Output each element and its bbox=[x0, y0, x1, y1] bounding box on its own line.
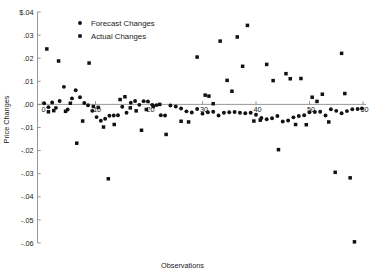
forecast-point bbox=[142, 99, 146, 103]
actual-point bbox=[288, 77, 292, 81]
x-tick-label: 0 bbox=[41, 105, 45, 114]
actual-point bbox=[305, 123, 309, 127]
forecast-point bbox=[206, 110, 210, 114]
forecast-point bbox=[318, 110, 322, 114]
forecast-point bbox=[340, 111, 344, 115]
forecast-point bbox=[275, 114, 279, 118]
forecast-point bbox=[350, 107, 354, 111]
actual-point bbox=[140, 129, 144, 133]
forecast-point bbox=[222, 111, 226, 115]
forecast-point bbox=[313, 110, 317, 114]
forecast-point bbox=[120, 105, 124, 109]
forecast-point bbox=[159, 113, 163, 117]
forecast-point bbox=[345, 109, 349, 113]
forecast-point bbox=[95, 115, 99, 119]
actual-point bbox=[333, 171, 337, 175]
forecast-point bbox=[146, 99, 150, 103]
legend-label: Forecast Changes bbox=[91, 19, 155, 28]
forecast-point bbox=[324, 114, 328, 118]
actual-point bbox=[187, 120, 191, 124]
actual-point bbox=[271, 79, 275, 83]
actual-point bbox=[158, 103, 162, 107]
actual-point bbox=[134, 109, 138, 113]
forecast-point bbox=[46, 105, 50, 109]
actual-point bbox=[69, 101, 73, 105]
forecast-point bbox=[179, 107, 183, 111]
actual-point bbox=[299, 77, 303, 81]
y-tick-label: -.05 bbox=[21, 216, 34, 225]
actual-point bbox=[57, 59, 61, 63]
y-tick-label: -.01 bbox=[21, 123, 34, 132]
forecast-point bbox=[58, 99, 62, 103]
forecast-point bbox=[243, 111, 247, 115]
forecast-point bbox=[74, 88, 78, 92]
forecast-point bbox=[174, 105, 178, 109]
forecast-point bbox=[190, 111, 194, 115]
y-tick-label: .03 bbox=[23, 31, 33, 40]
actual-point bbox=[225, 79, 229, 83]
forecast-point bbox=[201, 112, 205, 116]
actual-point bbox=[218, 39, 222, 43]
forecast-point bbox=[168, 104, 172, 108]
actual-point bbox=[102, 125, 106, 128]
forecast-point bbox=[103, 117, 107, 121]
forecast-point bbox=[129, 101, 133, 105]
actual-point bbox=[207, 94, 211, 98]
forecast-point bbox=[297, 114, 301, 118]
y-tick-label: -.04 bbox=[21, 192, 34, 201]
actual-point bbox=[203, 93, 207, 97]
forecast-point bbox=[195, 107, 199, 111]
forecast-point bbox=[238, 111, 242, 115]
actual-point bbox=[52, 109, 56, 113]
forecast-point bbox=[42, 101, 46, 105]
actual-point bbox=[145, 108, 149, 112]
forecast-point bbox=[82, 101, 86, 105]
forecast-point bbox=[155, 103, 159, 107]
actual-point bbox=[252, 119, 256, 123]
forecast-point bbox=[211, 110, 215, 114]
forecast-point bbox=[70, 96, 74, 100]
forecast-point bbox=[265, 117, 269, 121]
forecast-point bbox=[99, 119, 103, 123]
forecast-point bbox=[254, 113, 258, 117]
chart-canvas: $.04.03.02.01.00-.01-.02-.03-.04-.05-.06… bbox=[0, 0, 370, 276]
actual-point bbox=[284, 72, 288, 76]
forecast-point bbox=[356, 107, 360, 111]
actual-point bbox=[129, 106, 133, 110]
forecast-point bbox=[163, 114, 167, 118]
forecast-point bbox=[227, 110, 231, 114]
legend-marker-circle-icon bbox=[78, 21, 82, 25]
forecast-point bbox=[329, 107, 333, 111]
actual-point bbox=[343, 92, 347, 96]
actual-point bbox=[112, 123, 116, 127]
forecast-point bbox=[281, 120, 285, 124]
y-tick-label: $.04 bbox=[19, 8, 33, 17]
forecast-point bbox=[133, 99, 137, 103]
forecast-point bbox=[78, 95, 82, 99]
actual-point bbox=[230, 89, 234, 93]
actual-point bbox=[152, 105, 156, 109]
forecast-point bbox=[292, 115, 296, 119]
actual-point bbox=[64, 110, 68, 114]
actual-point bbox=[75, 141, 79, 145]
forecast-point bbox=[107, 114, 111, 118]
actual-point bbox=[92, 105, 96, 109]
forecast-point bbox=[270, 116, 274, 120]
actual-point bbox=[211, 102, 215, 106]
actual-point bbox=[348, 176, 352, 180]
forecast-point bbox=[50, 101, 54, 105]
legend-marker-square-icon bbox=[78, 34, 82, 38]
legend-label: Actual Changes bbox=[91, 32, 146, 41]
y-tick-label: -.03 bbox=[21, 169, 34, 178]
actual-point bbox=[241, 65, 245, 69]
actual-point bbox=[277, 148, 281, 152]
forecast-point bbox=[125, 111, 129, 115]
forecast-point bbox=[137, 103, 141, 107]
forecast-point bbox=[86, 103, 90, 107]
forecast-point bbox=[286, 119, 290, 123]
x-axis-title: Observations bbox=[161, 261, 204, 270]
y-axis-title: Price Changes bbox=[2, 95, 11, 143]
y-tick-label: -.06 bbox=[21, 239, 34, 248]
actual-point bbox=[47, 110, 51, 114]
actual-point bbox=[123, 95, 127, 99]
